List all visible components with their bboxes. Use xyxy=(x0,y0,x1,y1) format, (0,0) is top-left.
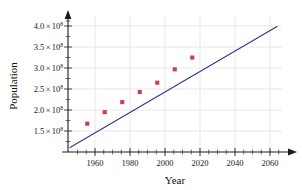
svg-text:3.0×108: 3.0×108 xyxy=(34,63,64,74)
y-tick-label-mantissa: 2.5 xyxy=(34,84,45,94)
x-tick-label: 1980 xyxy=(122,158,139,168)
x-axis-title: Year xyxy=(165,174,186,186)
data-point-marker xyxy=(103,110,107,114)
y-tick-label-base: 10 xyxy=(52,126,61,136)
data-point-marker xyxy=(138,90,142,94)
y-tick-label-exponent: 8 xyxy=(60,42,63,48)
y-tick-label-exponent: 8 xyxy=(60,63,63,69)
y-tick-label-mantissa: 3.5 xyxy=(34,42,45,52)
y-tick-label-base: 10 xyxy=(52,63,61,73)
y-tick-label-times: × xyxy=(46,126,51,136)
x-tick-label: 2000 xyxy=(157,158,174,168)
svg-text:1.5×108: 1.5×108 xyxy=(34,126,64,137)
data-point-marker xyxy=(190,56,194,60)
population-vs-year-chart: 1.5×108 2.0×108 2.5×108 3.0×108 3.5×108 … xyxy=(0,0,302,190)
y-tick-label-times: × xyxy=(46,21,51,31)
svg-text:2.5×108: 2.5×108 xyxy=(34,84,64,95)
y-axis-title: Population xyxy=(7,62,19,110)
y-tick-label-times: × xyxy=(46,42,51,52)
y-tick-label-base: 10 xyxy=(52,21,61,31)
y-tick-label-mantissa: 2.0 xyxy=(34,105,45,115)
x-tick-label: 2040 xyxy=(227,158,244,168)
svg-text:3.5×108: 3.5×108 xyxy=(34,42,64,53)
y-tick-label-exponent: 8 xyxy=(60,105,63,111)
data-point-marker xyxy=(173,67,177,71)
y-tick-label-times: × xyxy=(46,63,51,73)
data-point-marker xyxy=(155,81,159,85)
svg-text:2.0×108: 2.0×108 xyxy=(34,105,64,116)
chart-svg: 1.5×108 2.0×108 2.5×108 3.0×108 3.5×108 … xyxy=(0,0,302,190)
y-tick-label-base: 10 xyxy=(52,105,61,115)
x-tick-label: 2020 xyxy=(192,158,209,168)
y-tick-label-mantissa: 1.5 xyxy=(34,126,45,136)
y-tick-label-exponent: 8 xyxy=(60,126,63,132)
y-tick-label-base: 10 xyxy=(52,42,61,52)
y-tick-label-times: × xyxy=(46,84,51,94)
svg-text:4.0×108: 4.0×108 xyxy=(34,21,64,32)
y-tick-label-exponent: 8 xyxy=(60,84,63,90)
y-tick-label-mantissa: 4.0 xyxy=(34,21,45,31)
y-tick-label-mantissa: 3.0 xyxy=(34,63,45,73)
data-point-marker xyxy=(85,122,89,126)
y-tick-label-base: 10 xyxy=(52,84,61,94)
data-point-marker xyxy=(120,100,124,104)
x-tick-label: 1960 xyxy=(87,158,104,168)
y-tick-label-times: × xyxy=(46,105,51,115)
x-tick-label: 2060 xyxy=(262,158,279,168)
y-tick-label-exponent: 8 xyxy=(60,21,63,27)
